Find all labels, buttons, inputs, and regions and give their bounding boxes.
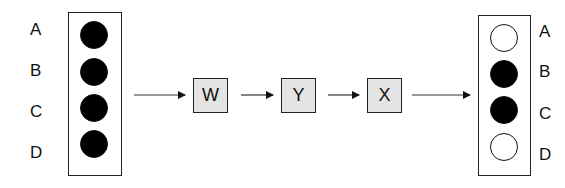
- output-label-c: C: [539, 104, 551, 124]
- output-bit-d: [490, 133, 518, 161]
- output-register: [478, 15, 531, 176]
- gate-x: X: [367, 78, 402, 113]
- output-label-a: A: [539, 22, 550, 42]
- output-bit-c: [490, 96, 518, 124]
- output-bit-b: [490, 60, 518, 88]
- output-label-d: D: [539, 145, 551, 165]
- gate-y: Y: [281, 78, 316, 113]
- output-bit-a: [490, 24, 518, 52]
- output-label-b: B: [539, 62, 550, 82]
- gate-w: W: [193, 78, 228, 113]
